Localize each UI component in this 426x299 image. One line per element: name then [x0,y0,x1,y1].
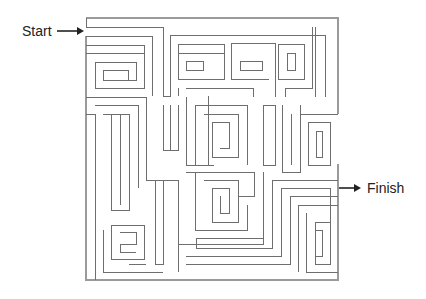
finish-arrow-icon [337,184,361,192]
maze-walls [86,18,338,280]
start-arrow-icon [57,27,84,35]
maze-svg [0,0,426,299]
maze-diagram: Start Finish [0,0,426,299]
